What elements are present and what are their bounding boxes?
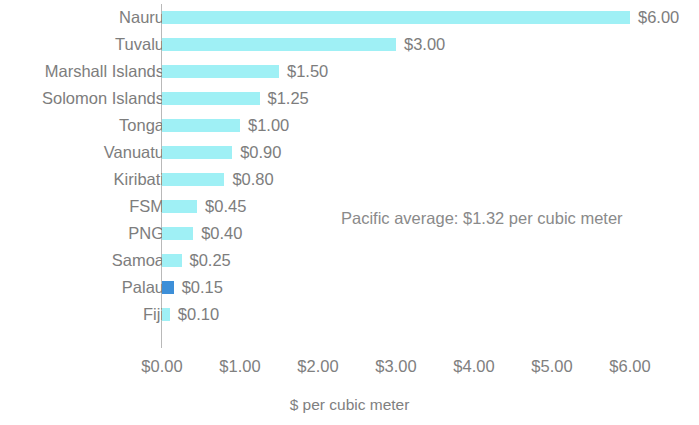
bar: [162, 281, 174, 294]
plot-area: Nauru$6.00Tuvalu$3.00Marshall Islands$1.…: [0, 0, 699, 355]
bar-value-label: $1.25: [268, 85, 309, 112]
bar-row: Tuvalu$3.00: [0, 31, 699, 58]
category-label: Tuvalu: [115, 31, 164, 58]
bar-value-label: $6.00: [638, 4, 679, 31]
bar: [162, 92, 260, 105]
bar-row: Marshall Islands$1.50: [0, 58, 699, 85]
bar-row: Samoa$0.25: [0, 247, 699, 274]
bar-row: Fiji$0.10: [0, 301, 699, 328]
bar-container: [162, 139, 232, 166]
category-label: PNG: [128, 220, 164, 247]
bar: [162, 200, 197, 213]
bar-value-label: $0.40: [201, 220, 242, 247]
category-label: Fiji: [143, 301, 164, 328]
bar-container: [162, 58, 279, 85]
bar-container: [162, 193, 197, 220]
bar-row: Palau$0.15: [0, 274, 699, 301]
x-axis-tick-label: $6.00: [570, 357, 690, 376]
bar-row: Kiribati$0.80: [0, 166, 699, 193]
bar: [162, 254, 182, 267]
bar-row: Nauru$6.00: [0, 4, 699, 31]
bar-container: [162, 220, 193, 247]
category-label: Marshall Islands: [45, 58, 164, 85]
bar-container: [162, 112, 240, 139]
bar-container: [162, 301, 170, 328]
bar-row: Tonga$1.00: [0, 112, 699, 139]
category-label: Palau: [122, 274, 164, 301]
bar-container: [162, 247, 182, 274]
bar-chart: Nauru$6.00Tuvalu$3.00Marshall Islands$1.…: [0, 0, 699, 425]
category-label: Tonga: [119, 112, 164, 139]
bar-value-label: $1.50: [287, 58, 328, 85]
bar-row: Solomon Islands$1.25: [0, 85, 699, 112]
bar-value-label: $0.90: [240, 139, 281, 166]
bar: [162, 308, 170, 321]
bar-value-label: $0.10: [178, 301, 219, 328]
bar: [162, 119, 240, 132]
bar: [162, 38, 396, 51]
category-label: Solomon Islands: [42, 85, 164, 112]
category-label: FSM: [129, 193, 164, 220]
bar: [162, 227, 193, 240]
bar-value-label: $3.00: [404, 31, 445, 58]
bar-value-label: $0.25: [190, 247, 231, 274]
bar-row: Vanuatu$0.90: [0, 139, 699, 166]
x-axis-title: $ per cubic meter: [0, 396, 699, 414]
bar: [162, 173, 224, 186]
bar-container: [162, 85, 260, 112]
bar-value-label: $0.80: [232, 166, 273, 193]
bar: [162, 11, 630, 24]
pacific-average-annotation: Pacific average: $1.32 per cubic meter: [341, 209, 623, 228]
bar: [162, 65, 279, 78]
bar-value-label: $0.15: [182, 274, 223, 301]
bar-container: [162, 274, 174, 301]
bar-value-label: $1.00: [248, 112, 289, 139]
bar-container: [162, 31, 396, 58]
category-label: Vanuatu: [104, 139, 164, 166]
category-label: Nauru: [119, 4, 164, 31]
bar-container: [162, 166, 224, 193]
bar-value-label: $0.45: [205, 193, 246, 220]
category-label: Kiribati: [114, 166, 164, 193]
bar-container: [162, 4, 630, 31]
category-label: Samoa: [112, 247, 164, 274]
bar: [162, 146, 232, 159]
